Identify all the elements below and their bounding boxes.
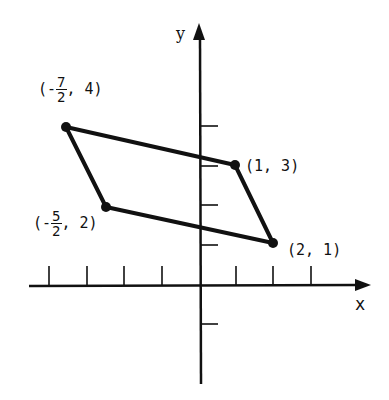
- y-axis-label: y: [176, 24, 185, 43]
- fraction: 52: [51, 209, 61, 238]
- point-label-c: (2, 1): [287, 241, 341, 259]
- plot-svg: [0, 0, 389, 400]
- point-label-d: (-52, 2): [33, 209, 98, 238]
- x-axis-label: x: [355, 294, 365, 314]
- x-axis: [29, 285, 358, 286]
- x-ticks: [49, 266, 311, 285]
- x-axis-arrow-icon: [355, 279, 371, 291]
- y-axis-arrow-icon: [193, 23, 205, 40]
- coordinate-diagram: y x (-72, 4) (1, 3) (2, 1) (-52, 2): [0, 0, 389, 400]
- y-axis: [200, 38, 201, 384]
- point-label-a: (-72, 4): [38, 75, 103, 104]
- fraction: 72: [56, 75, 66, 104]
- point-label-b: (1, 3): [245, 157, 299, 175]
